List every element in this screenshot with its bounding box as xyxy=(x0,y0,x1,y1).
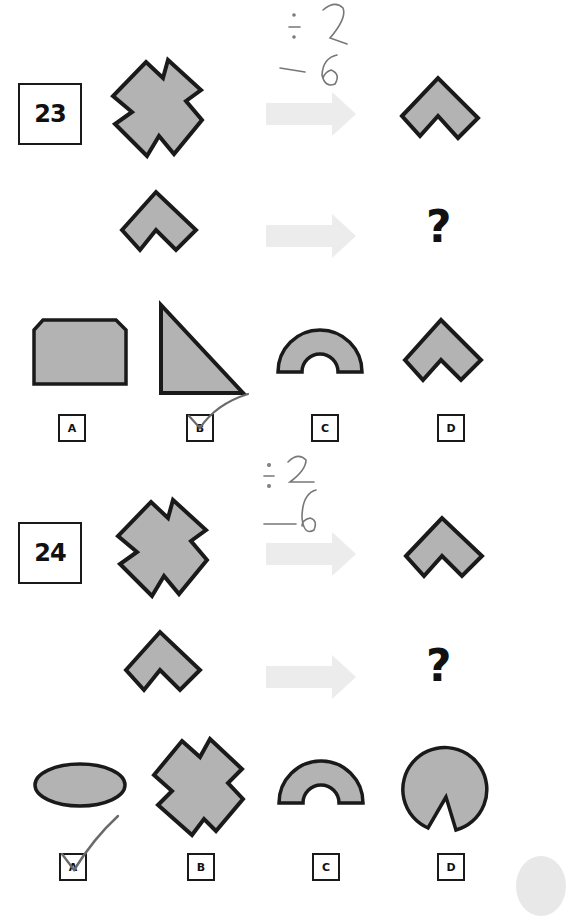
option-a-shape xyxy=(32,318,128,386)
option-d-button[interactable]: D xyxy=(437,853,465,881)
question-mark: ? xyxy=(426,205,452,249)
option-c-button[interactable]: C xyxy=(312,853,340,881)
right-arrow-icon xyxy=(266,655,356,699)
option-c-button[interactable]: C xyxy=(311,414,339,442)
checkmark-icon xyxy=(58,816,128,878)
option-b-button[interactable]: B xyxy=(187,853,215,881)
option-a-shape xyxy=(32,762,128,810)
checkmark-icon xyxy=(186,390,256,440)
chevron-shape xyxy=(124,630,204,694)
option-c-shape xyxy=(275,325,365,375)
chevron-shape xyxy=(120,190,200,254)
option-d-shape xyxy=(403,318,483,384)
option-a-button[interactable]: A xyxy=(58,414,86,442)
chevron-shape xyxy=(404,516,484,580)
question-number: 24 xyxy=(18,522,82,584)
right-arrow-icon xyxy=(266,214,356,258)
handwritten-annotation xyxy=(258,448,338,538)
right-arrow-icon xyxy=(266,92,356,136)
page-edge-shadow xyxy=(516,856,566,916)
question-mark: ? xyxy=(426,644,452,688)
cross-shape xyxy=(113,60,205,156)
chevron-shape xyxy=(400,76,480,140)
option-b-shape xyxy=(154,739,246,835)
handwritten-annotation xyxy=(275,0,355,90)
question-number: 23 xyxy=(18,83,82,145)
cross-shape xyxy=(118,500,210,596)
option-c-shape xyxy=(276,756,366,806)
option-b-shape xyxy=(158,302,248,396)
option-d-shape xyxy=(404,742,488,832)
option-d-button[interactable]: D xyxy=(437,414,465,442)
right-arrow-icon xyxy=(266,532,356,576)
